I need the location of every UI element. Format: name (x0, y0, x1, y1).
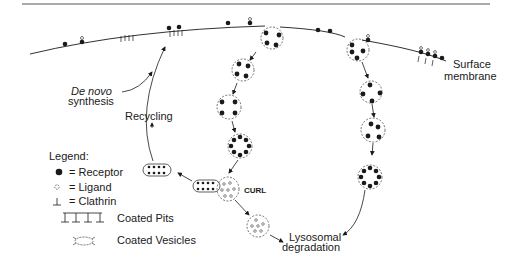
lysosome (247, 215, 269, 237)
recycling-tubule (143, 164, 171, 176)
legend-coated-pits: Coated Pits (117, 212, 174, 224)
coated-vesicle (360, 81, 382, 103)
clathrin-icon (53, 198, 61, 205)
recycling-label: Recycling (125, 110, 173, 122)
legend-receptor: = Receptor (69, 166, 123, 178)
coated-vesicle (261, 27, 283, 49)
endosome-clustered (228, 134, 252, 158)
endosome (361, 118, 385, 142)
vesicle-column-right (343, 39, 385, 235)
ligand-icon (55, 185, 59, 189)
legend-ligand: = Ligand (69, 181, 112, 193)
legend: Legend: = Receptor = Ligand = Clathrin C… (49, 150, 196, 246)
de-novo-arrow (122, 72, 152, 92)
surface-label-line2: membrane (444, 70, 497, 82)
curl-compartment: CURL (193, 177, 266, 201)
curl-label: CURL (244, 186, 266, 195)
surface-membrane (30, 26, 446, 61)
legend-clathrin: = Clathrin (69, 195, 116, 207)
endocytosis-diagram: CURL Surface membrane De novo synthesis … (0, 0, 507, 261)
endosome (217, 95, 241, 119)
surface-label-line1: Surface (453, 58, 491, 70)
coated-vesicle (232, 59, 254, 81)
lysosomal-label-line2: degradation (282, 241, 340, 253)
receptor-icon (56, 169, 63, 176)
coated-pits-icon (61, 213, 104, 222)
legend-coated-vesicles: Coated Vesicles (117, 234, 196, 246)
denovo-label-line2: synthesis (68, 95, 114, 107)
coated-vesicle-icon (73, 237, 95, 245)
coated-vesicle (347, 39, 369, 61)
endosome-clustered (358, 165, 382, 189)
legend-title: Legend: (49, 150, 89, 162)
recycling-arrow (146, 47, 165, 161)
vesicle-column-left (217, 27, 283, 173)
